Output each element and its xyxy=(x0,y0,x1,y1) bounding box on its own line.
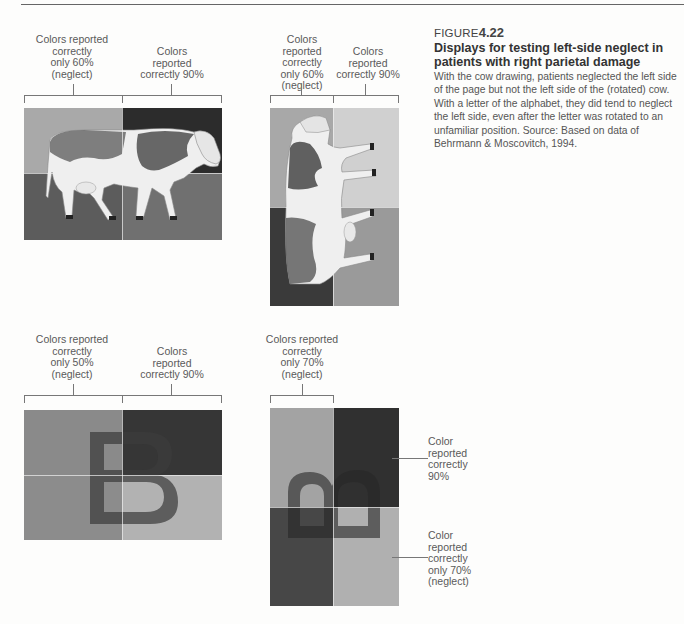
letter-upright-right-label: Colors reported correctly 90% xyxy=(122,346,222,381)
cow-upright-left-label: Colors reported correctly only 60% (negl… xyxy=(22,34,122,80)
letter-rotated-right-top-label: Color reported correctly 90% xyxy=(428,436,488,482)
horizontal-divider xyxy=(24,475,222,476)
horizontal-divider xyxy=(270,207,399,208)
letter-rotated-top-label: Colors reported correctly only 70% (negl… xyxy=(262,334,342,380)
letter-upright-panel xyxy=(24,410,222,540)
top-rule xyxy=(21,4,684,5)
letter-rotated-panel xyxy=(270,408,399,606)
cow-rotated-right-label: Colors reported correctly 90% xyxy=(333,46,403,81)
letter-rotated-right-bottom-label: Color reported correctly only 70% (negle… xyxy=(428,530,488,588)
bracket-left xyxy=(270,395,334,403)
cow-rotated-left-label: Colors reported correctly only 60% (negl… xyxy=(266,34,338,92)
callout-line-top xyxy=(392,458,428,459)
bracket-left xyxy=(24,395,123,403)
figure-body: With the cow drawing, patients neglected… xyxy=(434,70,684,150)
letter-upright-left-label: Colors reported correctly only 50% (negl… xyxy=(22,334,122,380)
figure-number: 4.22 xyxy=(479,25,504,40)
bracket-left xyxy=(270,95,334,103)
vertical-divider xyxy=(122,108,123,240)
figure-title: Displays for testing left-side neglect i… xyxy=(434,41,684,69)
bracket-right xyxy=(122,395,222,403)
bracket-left xyxy=(24,95,123,103)
cow-upright-panel xyxy=(24,108,222,240)
bracket-right xyxy=(333,95,399,103)
bracket-right xyxy=(122,95,222,103)
figure-label: FIGURE xyxy=(434,27,479,39)
figure-caption: FIGURE4.22 Displays for testing left-sid… xyxy=(434,23,684,150)
cow-upright-right-label: Colors reported correctly 90% xyxy=(122,46,222,81)
figure-heading: FIGURE4.22 xyxy=(434,23,684,41)
cow-rotated-panel xyxy=(270,108,399,306)
cow-illustration xyxy=(24,108,222,240)
callout-line-bottom xyxy=(392,557,428,558)
horizontal-divider xyxy=(24,173,222,174)
horizontal-divider xyxy=(270,507,399,508)
